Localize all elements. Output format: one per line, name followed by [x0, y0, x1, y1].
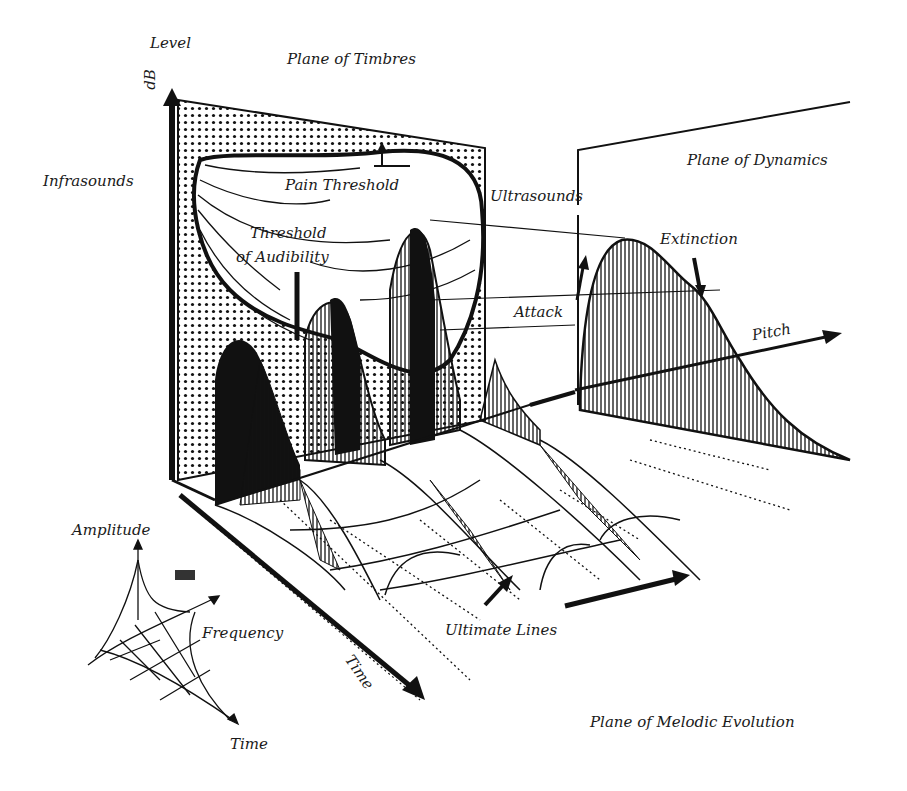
plane-dynamics-label: Plane of Dynamics: [687, 153, 828, 168]
sound-space-diagram: [0, 0, 907, 791]
ultrasounds-label: Ultrasounds: [490, 189, 583, 204]
ultimate-lines-arrows: [485, 570, 690, 606]
inset-time-label: Time: [230, 737, 268, 752]
infrasounds-label: Infrasounds: [43, 174, 134, 189]
pain-threshold-label: Pain Threshold: [285, 178, 399, 193]
extinction-label: Extinction: [660, 232, 738, 247]
plane-timbres-label: Plane of Timbres: [287, 52, 416, 67]
threshold-audibility-label-1: Threshold: [250, 226, 327, 241]
threshold-audibility-label-2: of Audibility: [236, 250, 329, 265]
ultimate-lines-label: Ultimate Lines: [445, 623, 557, 638]
floor-hatch: [300, 445, 640, 590]
amplitude-label: Amplitude: [72, 523, 150, 538]
frequency-label: Frequency: [202, 626, 283, 641]
axis-label-level: Level: [150, 36, 191, 51]
inset-mark: [175, 570, 195, 580]
plane-melodic-evolution-label: Plane of Melodic Evolution: [590, 715, 795, 730]
axis-label-db: dB: [143, 69, 158, 90]
pitch-arrow-segment: [530, 392, 575, 405]
attack-label: Attack: [514, 305, 563, 320]
